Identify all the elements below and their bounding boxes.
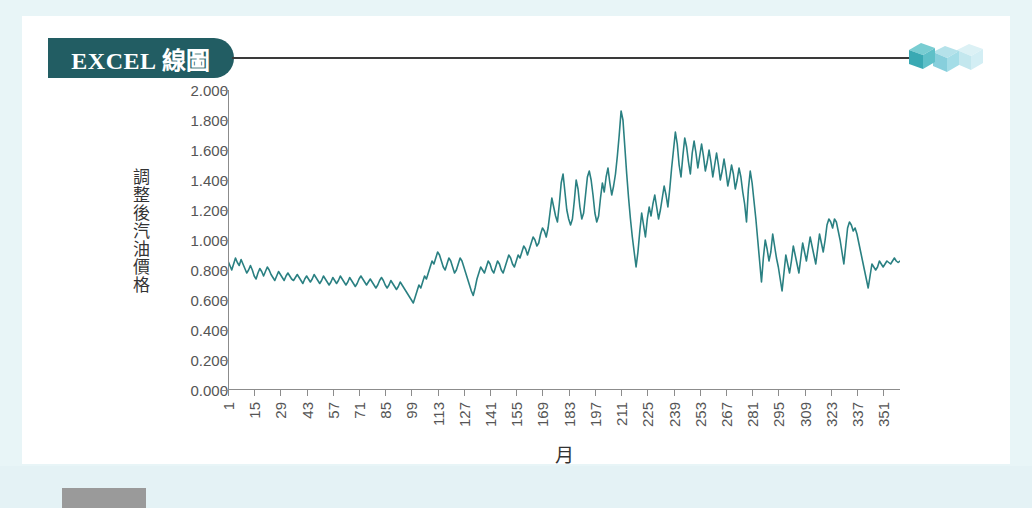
x-axis-tick-label: 351 bbox=[875, 402, 892, 427]
x-axis-tick bbox=[700, 390, 701, 396]
x-axis-tick-label: 337 bbox=[849, 402, 866, 427]
y-axis-title: 調整後汽油價格 bbox=[128, 168, 154, 294]
x-axis-tick-label: 155 bbox=[508, 402, 525, 427]
x-axis-tick bbox=[280, 390, 281, 396]
x-axis-tick bbox=[569, 390, 570, 396]
y-axis-tick bbox=[222, 270, 228, 271]
x-axis-tick-label: 309 bbox=[797, 402, 814, 427]
x-axis-tick bbox=[385, 390, 386, 396]
x-axis-tick bbox=[831, 390, 832, 396]
x-axis-tick bbox=[542, 390, 543, 396]
y-axis-tick bbox=[222, 360, 228, 361]
section-title-banner: EXCEL 線圖 bbox=[48, 38, 234, 78]
x-axis-tick-label: 43 bbox=[299, 402, 316, 419]
x-axis-tick bbox=[516, 390, 517, 396]
x-axis-tick bbox=[438, 390, 439, 396]
data-series-line bbox=[228, 90, 900, 390]
line-chart: 調整後汽油價格 0.0000.2000.4000.6000.8001.0001.… bbox=[120, 90, 920, 470]
x-axis-tick bbox=[359, 390, 360, 396]
y-axis-tick bbox=[222, 120, 228, 121]
y-axis-tick bbox=[222, 240, 228, 241]
x-axis-tick-label: 295 bbox=[770, 402, 787, 427]
x-axis-line bbox=[228, 389, 900, 390]
x-axis-tick-label: 225 bbox=[639, 402, 656, 427]
x-axis-tick-label: 239 bbox=[666, 402, 683, 427]
x-axis-tick-label: 99 bbox=[403, 402, 420, 419]
y-axis-tick bbox=[222, 300, 228, 301]
three-cubes-icon bbox=[905, 36, 991, 78]
x-axis-title: 月 bbox=[228, 440, 900, 467]
y-axis-line bbox=[228, 90, 229, 390]
y-axis-tick bbox=[222, 330, 228, 331]
x-axis-tick bbox=[621, 390, 622, 396]
x-axis-tick-label: 211 bbox=[613, 402, 630, 426]
x-axis-tick bbox=[595, 390, 596, 396]
x-axis-tick-label: 127 bbox=[456, 402, 473, 427]
x-axis-tick bbox=[647, 390, 648, 396]
x-axis-tick-label: 267 bbox=[718, 402, 735, 427]
x-axis-tick bbox=[228, 390, 229, 396]
y-axis-tick bbox=[222, 210, 228, 211]
x-axis-tick-label: 1 bbox=[220, 402, 237, 410]
x-axis-tick-label: 29 bbox=[272, 402, 289, 419]
section-title-label: EXCEL 線圖 bbox=[71, 41, 210, 76]
y-axis-tick-labels: 0.0000.2000.4000.6000.8001.0001.2001.400… bbox=[154, 90, 228, 390]
x-axis-tick-label: 57 bbox=[325, 402, 342, 419]
x-axis-tick-label: 113 bbox=[430, 402, 447, 426]
x-axis-tick bbox=[333, 390, 334, 396]
x-axis-tick-label: 71 bbox=[351, 402, 368, 419]
x-axis-tick-label: 323 bbox=[823, 402, 840, 427]
x-axis-tick bbox=[805, 390, 806, 396]
x-axis-tick bbox=[674, 390, 675, 396]
x-axis-tick bbox=[778, 390, 779, 396]
x-axis-tick-label: 169 bbox=[534, 402, 551, 427]
x-axis-tick bbox=[490, 390, 491, 396]
x-axis-tick-label: 15 bbox=[246, 402, 263, 419]
x-axis-tick-label: 253 bbox=[692, 402, 709, 427]
x-axis-tick bbox=[307, 390, 308, 396]
x-axis-tick bbox=[411, 390, 412, 396]
x-axis-tick bbox=[752, 390, 753, 396]
title-rule-line bbox=[232, 57, 920, 59]
x-axis-tick bbox=[857, 390, 858, 396]
x-axis-tick bbox=[464, 390, 465, 396]
x-axis-tick-label: 281 bbox=[744, 402, 761, 427]
x-axis-tick bbox=[726, 390, 727, 396]
bottom-band bbox=[0, 466, 1032, 508]
plot-area: 1152943577185991131271411551691831972112… bbox=[228, 90, 900, 390]
y-axis-tick bbox=[222, 180, 228, 181]
y-axis-tick bbox=[222, 150, 228, 151]
y-axis-tick bbox=[222, 90, 228, 91]
page-root: EXCEL 線圖 調整後汽油價格 0.00 bbox=[0, 0, 1032, 508]
x-axis-tick bbox=[254, 390, 255, 396]
x-axis-tick-label: 197 bbox=[587, 402, 604, 427]
x-axis-tick-label: 141 bbox=[482, 402, 499, 427]
x-axis-tick-label: 85 bbox=[377, 402, 394, 419]
bottom-gray-marker bbox=[62, 488, 146, 508]
x-axis-tick bbox=[883, 390, 884, 396]
x-axis-tick-label: 183 bbox=[561, 402, 578, 427]
